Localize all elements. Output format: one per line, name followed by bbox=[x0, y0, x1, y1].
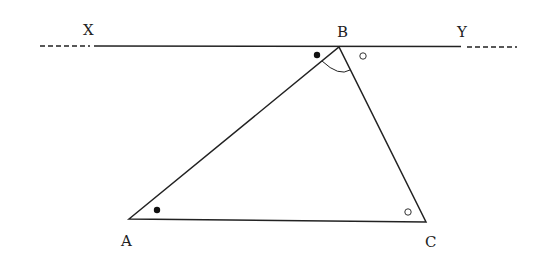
label-c: C bbox=[425, 233, 436, 251]
triangle-abc bbox=[129, 47, 426, 222]
angle-arc-b bbox=[322, 61, 350, 72]
label-a: A bbox=[120, 232, 132, 250]
filled-dot-marker-a bbox=[154, 207, 160, 213]
filled-dot-marker-xba bbox=[314, 52, 320, 58]
hollow-dot-marker-c bbox=[405, 209, 411, 215]
diagram-canvas: X B Y A C bbox=[0, 0, 543, 265]
label-y: Y bbox=[456, 23, 468, 41]
hollow-dot-marker-ybc bbox=[360, 53, 366, 59]
line-xy bbox=[94, 46, 461, 47]
label-x: X bbox=[83, 21, 94, 39]
triangle-diagram: X B Y A C bbox=[0, 0, 543, 265]
label-b: B bbox=[337, 23, 348, 41]
